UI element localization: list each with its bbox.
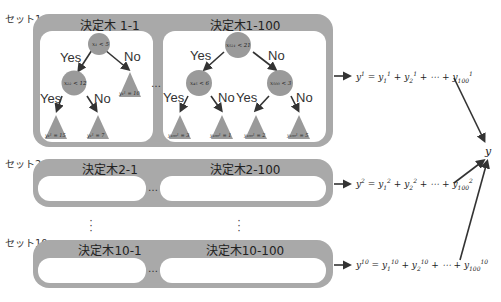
edge-label-yes: Yes <box>60 50 82 65</box>
svg-text:x₂₂ < 12: x₂₂ < 12 <box>64 80 87 86</box>
tree-10-100-title: 決定木10-100 <box>175 241 315 258</box>
vertical-ellipsis-right: ··· <box>236 218 242 233</box>
tree-2-1-panel <box>38 176 146 201</box>
set-10-formula: y10 = y110 + y210 + ⋯ + y10010 <box>356 258 488 272</box>
svg-text:y₁₀₀¹ = 5: y₁₀₀¹ = 5 <box>286 132 308 139</box>
set-2-ellipsis: … <box>148 182 158 193</box>
tree-10-1-title: 決定木10-1 <box>50 241 170 258</box>
edge-label-yes: Yes <box>236 90 258 105</box>
edge-label-no: No <box>94 91 111 106</box>
edge-label-no: No <box>296 90 313 105</box>
tree-2-1-title: 決定木2-1 <box>50 160 170 177</box>
edge-label-yes: Yes <box>163 90 185 105</box>
svg-text:x₁ < 5: x₁ < 5 <box>92 41 109 47</box>
edge-label-no: No <box>268 48 285 63</box>
svg-text:y₁¹ = 10: y₁¹ = 10 <box>118 90 140 97</box>
svg-text:x₅₂₁ < 21: x₅₂₁ < 21 <box>226 42 251 48</box>
edge-label-yes: Yes <box>190 48 212 63</box>
formula-1-to-y-arrow <box>454 78 484 140</box>
svg-text:y₁¹ = 7: y₁¹ = 7 <box>86 132 105 139</box>
svg-text:y₁¹ = 15: y₁¹ = 15 <box>44 132 66 139</box>
output-y: y <box>485 145 491 158</box>
edge-label-no: No <box>124 49 141 64</box>
tree-10-1-panel <box>38 258 146 283</box>
tree-2-100-title: 決定木2-100 <box>175 160 315 177</box>
vertical-ellipsis-left: ··· <box>88 218 94 233</box>
svg-text:y₁₀₀¹ = 3: y₁₀₀¹ = 3 <box>167 132 189 139</box>
set-1-formula: y1 = y11 + y21 + ⋯ + y1001 <box>356 70 473 84</box>
set-10-ellipsis: … <box>148 263 158 274</box>
svg-text:y₁₀₀¹ = 1: y₁₀₀¹ = 1 <box>209 132 231 139</box>
tree-2-100-panel <box>160 176 326 201</box>
edge-label-yes: Yes <box>40 91 62 106</box>
set-2-formula: y2 = y12 + y22 + ⋯ + y1002 <box>356 177 473 191</box>
tree-10-100-panel <box>160 258 326 283</box>
edge-label-no: No <box>218 90 235 105</box>
svg-text:x₅₀₀ < 3: x₅₀₀ < 3 <box>270 80 292 86</box>
svg-text:y₁₀₀¹ = 2: y₁₀₀¹ = 2 <box>243 132 265 139</box>
svg-text:x₄₅ < 6: x₄₅ < 6 <box>190 80 210 86</box>
